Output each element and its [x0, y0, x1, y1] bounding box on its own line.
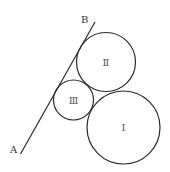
circle-i: Ⅰ [87, 91, 160, 164]
circle-iii-label: Ⅲ [69, 95, 79, 106]
circle-iii: Ⅲ [54, 80, 94, 120]
point-a-label: A [9, 144, 18, 155]
point-b-label: B [81, 14, 88, 25]
circle-ii: Ⅱ [77, 33, 136, 92]
tangent-circles-diagram: A B Ⅰ Ⅱ Ⅲ [0, 0, 170, 172]
circle-ii-label: Ⅱ [103, 57, 110, 68]
circle-i-label: Ⅰ [122, 122, 126, 133]
